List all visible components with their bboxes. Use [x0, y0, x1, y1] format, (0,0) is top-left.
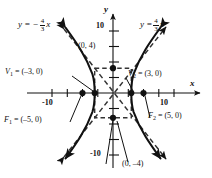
y-tick-label-positive: 10 — [96, 22, 104, 30]
hyperbola-figure: y = −43x y =43x V1 = (–3, 0) V2 = (3, 0)… — [0, 0, 212, 178]
focus-right-label: F2 = (5, 0) — [148, 112, 182, 121]
vertex-left-equation: = (–3, 0) — [13, 67, 43, 76]
vertex-left-label: V1 = (–3, 0) — [5, 68, 43, 77]
asymptote-right-label: y =43x — [140, 18, 164, 33]
x-tick-label-positive: 10 — [160, 99, 168, 107]
leader-V1 — [72, 76, 93, 91]
asymptote-right-numerator: 4 — [153, 18, 159, 25]
asymptote-left-suffix: x — [46, 19, 50, 29]
point-F2 — [140, 90, 146, 96]
co-vertex-bottom-label: (0, –4) — [122, 160, 143, 168]
y-axis-label: y — [104, 5, 108, 14]
co-vertex-top-label: (0, 4) — [78, 42, 95, 50]
leader-co-vertex-bottom-2 — [117, 121, 128, 162]
asymptote-left-label: y = −43x — [18, 18, 50, 33]
asymptote-left-numerator: 4 — [40, 18, 46, 25]
point-V2 — [128, 90, 134, 96]
asymptote-left-prefix: y = − — [18, 19, 39, 29]
asymptote-left-fraction: 43 — [40, 18, 46, 33]
axes — [27, 14, 200, 168]
point-co-vertex-bottom — [110, 115, 116, 121]
asymptote-right-denominator: 3 — [153, 25, 159, 33]
focus-left-equation: = (–5, 0) — [12, 115, 42, 124]
vertex-right-label: V2 = (3, 0) — [128, 70, 162, 79]
asymptote-right-fraction: 43 — [153, 18, 159, 33]
asymptote-left-denominator: 3 — [40, 25, 46, 33]
x-tick-label-negative: -10 — [42, 99, 53, 107]
vertex-right-equation: = (3, 0) — [136, 69, 162, 78]
x-axis-label: x — [190, 79, 195, 88]
y-tick-label-negative: -10 — [90, 150, 101, 158]
leader-F1 — [70, 96, 81, 122]
asymptote-right-prefix: y = — [140, 19, 152, 29]
focus-right-equation: = (5, 0) — [156, 111, 182, 120]
asymptote-right-suffix: x — [160, 19, 164, 29]
point-co-vertex-top — [110, 65, 116, 71]
focus-left-label: F1 = (–5, 0) — [4, 116, 42, 125]
leader-co-vertex-bottom — [106, 120, 113, 164]
point-F1 — [79, 90, 85, 96]
